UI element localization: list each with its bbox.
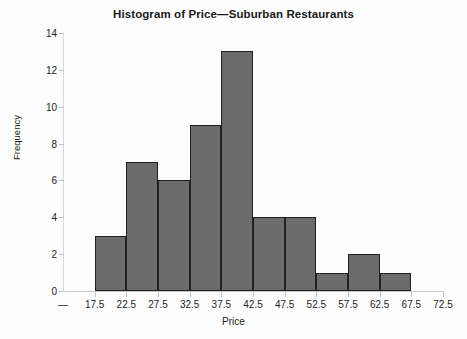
histogram-bar	[380, 273, 412, 291]
y-axis-tick-labels: 02468101214	[27, 0, 57, 339]
x-axis-tick	[95, 292, 96, 297]
x-axis-tick-label: 72.5	[433, 299, 452, 310]
x-axis-tick-label: 42.5	[243, 299, 262, 310]
x-axis-tick	[348, 292, 349, 297]
histogram-bar	[253, 217, 285, 291]
x-axis-tick-label: 32.5	[180, 299, 199, 310]
x-axis-tick-label: —	[58, 299, 68, 310]
x-axis-tick	[380, 292, 381, 297]
x-axis-tick-label: 62.5	[370, 299, 389, 310]
x-axis-tick	[158, 292, 159, 297]
histogram-bar	[190, 125, 222, 291]
y-axis-tick-label: 4	[29, 212, 57, 223]
y-axis-tick-label: 2	[29, 249, 57, 260]
histogram-bar	[221, 51, 253, 291]
x-axis-tick-label: 37.5	[212, 299, 231, 310]
chart-title: Histogram of Price—Suburban Restaurants	[0, 8, 467, 20]
x-axis-tick-label: 57.5	[338, 299, 357, 310]
y-axis-tick-label: 10	[29, 101, 57, 112]
histogram-bar	[95, 236, 127, 291]
histogram-bar	[348, 254, 380, 291]
histogram-figure: Histogram of Price—Suburban Restaurants …	[0, 0, 467, 339]
plot-area	[63, 33, 443, 291]
x-axis-tick	[253, 292, 254, 297]
histogram-bar	[316, 273, 348, 291]
y-axis-tick	[59, 291, 64, 292]
x-axis-tick-label: 47.5	[275, 299, 294, 310]
x-axis-tick	[221, 292, 222, 297]
histogram-bar	[126, 162, 158, 291]
y-axis-tick-label: 0	[29, 286, 57, 297]
x-axis-tick	[126, 292, 127, 297]
y-axis-tick-label: 12	[29, 64, 57, 75]
y-axis-tick-label: 6	[29, 175, 57, 186]
x-axis-tick	[316, 292, 317, 297]
x-axis-title: Price	[0, 316, 467, 327]
histogram-bar	[285, 217, 317, 291]
y-axis-title: Frequency	[11, 98, 22, 178]
x-axis-tick-label: 52.5	[307, 299, 326, 310]
histogram-bar	[158, 180, 190, 291]
x-axis-tick	[443, 292, 444, 297]
x-axis-tick	[190, 292, 191, 297]
x-axis-tick-label: 27.5	[148, 299, 167, 310]
x-axis-tick	[285, 292, 286, 297]
x-axis-tick-label: 22.5	[117, 299, 136, 310]
x-axis-tick	[411, 292, 412, 297]
x-axis-tick-label: 67.5	[402, 299, 421, 310]
y-axis-tick-label: 8	[29, 138, 57, 149]
x-axis-tick-label: 17.5	[85, 299, 104, 310]
y-axis-tick-label: 14	[29, 28, 57, 39]
